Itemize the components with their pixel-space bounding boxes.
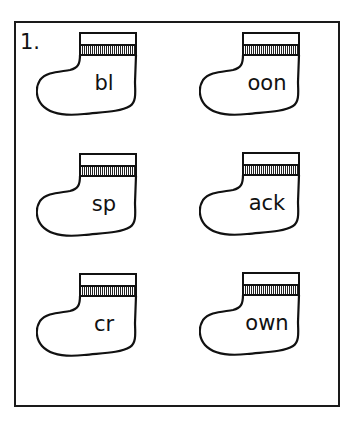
sock-card: cr (36, 273, 140, 359)
sock-word: own (229, 313, 305, 334)
sock-card: oon (199, 32, 303, 118)
sock-card: ack (199, 152, 303, 238)
sock-word: oon (229, 73, 305, 94)
sock-card: bl (36, 32, 140, 118)
sock-word: cr (66, 314, 142, 335)
sock-word: bl (66, 73, 142, 94)
sock-card: own (199, 272, 303, 358)
sock-word: sp (66, 194, 142, 215)
sock-word: ack (229, 193, 305, 214)
sock-card: sp (36, 153, 140, 239)
